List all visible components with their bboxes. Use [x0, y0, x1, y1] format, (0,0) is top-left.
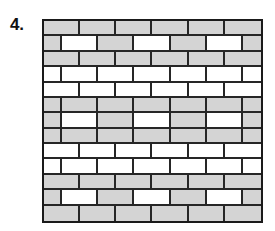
brick-row	[44, 83, 261, 98]
brick	[44, 52, 80, 65]
brick	[243, 113, 261, 126]
brick-row	[44, 52, 261, 67]
brick	[243, 67, 261, 80]
brick	[80, 21, 116, 34]
brick	[171, 98, 207, 111]
brick-row	[44, 21, 261, 36]
brick	[134, 113, 170, 126]
brick	[207, 159, 243, 172]
brick	[207, 67, 243, 80]
brick	[243, 129, 261, 142]
brick-row	[44, 175, 261, 190]
brick	[44, 36, 62, 49]
brick	[116, 206, 152, 221]
brick	[116, 52, 152, 65]
brick-row	[44, 206, 261, 221]
brick-row	[44, 98, 261, 113]
brick	[44, 113, 62, 126]
brick	[243, 159, 261, 172]
brick-row	[44, 36, 261, 51]
brick	[98, 36, 134, 49]
brick-row	[44, 159, 261, 174]
brick	[189, 144, 225, 157]
brick	[134, 67, 170, 80]
brick	[152, 83, 188, 96]
brick	[152, 175, 188, 188]
brick	[189, 52, 225, 65]
brick	[189, 175, 225, 188]
brick	[207, 129, 243, 142]
brick-row	[44, 144, 261, 159]
brick	[225, 52, 261, 65]
brick	[152, 52, 188, 65]
brick	[98, 98, 134, 111]
brick	[44, 83, 80, 96]
brick	[44, 159, 62, 172]
brick	[116, 144, 152, 157]
brick	[171, 190, 207, 203]
brick	[171, 113, 207, 126]
brick	[189, 21, 225, 34]
brick	[44, 98, 62, 111]
brick	[225, 175, 261, 188]
figure-root: 4.	[0, 0, 275, 231]
brick	[62, 36, 98, 49]
brick	[44, 190, 62, 203]
brick-wall-diagram	[42, 19, 263, 223]
brick	[152, 206, 188, 221]
brick	[152, 21, 188, 34]
brick	[207, 98, 243, 111]
brick	[134, 36, 170, 49]
brick	[189, 83, 225, 96]
brick	[189, 206, 225, 221]
brick	[80, 206, 116, 221]
brick	[116, 21, 152, 34]
brick	[80, 52, 116, 65]
brick	[207, 36, 243, 49]
brick	[171, 67, 207, 80]
brick	[80, 144, 116, 157]
brick	[98, 190, 134, 203]
brick	[134, 190, 170, 203]
brick	[225, 144, 261, 157]
brick	[80, 175, 116, 188]
problem-number-label: 4.	[10, 16, 24, 33]
brick-row	[44, 190, 261, 205]
brick	[207, 190, 243, 203]
brick	[62, 129, 98, 142]
brick-row	[44, 129, 261, 144]
brick	[62, 98, 98, 111]
brick	[225, 21, 261, 34]
brick	[62, 159, 98, 172]
brick	[44, 144, 80, 157]
brick	[152, 144, 188, 157]
brick	[98, 129, 134, 142]
brick	[116, 83, 152, 96]
brick	[225, 206, 261, 221]
brick	[134, 129, 170, 142]
brick	[62, 190, 98, 203]
brick	[243, 190, 261, 203]
brick	[207, 113, 243, 126]
brick	[116, 175, 152, 188]
brick	[62, 67, 98, 80]
brick-row	[44, 113, 261, 128]
brick	[62, 113, 98, 126]
brick	[44, 21, 80, 34]
brick	[225, 83, 261, 96]
brick	[171, 129, 207, 142]
brick	[98, 67, 134, 80]
brick	[44, 206, 80, 221]
brick	[243, 36, 261, 49]
brick	[171, 36, 207, 49]
brick	[134, 98, 170, 111]
brick	[44, 175, 80, 188]
brick	[44, 129, 62, 142]
brick-row	[44, 67, 261, 82]
brick	[98, 113, 134, 126]
brick	[98, 159, 134, 172]
brick	[134, 159, 170, 172]
brick	[243, 98, 261, 111]
brick	[44, 67, 62, 80]
brick	[80, 83, 116, 96]
